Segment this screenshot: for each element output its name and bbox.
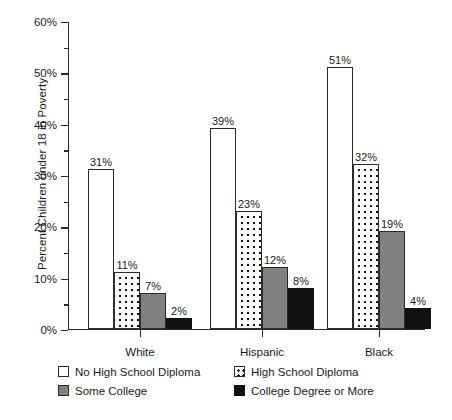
- legend-label: High School Diploma: [251, 366, 358, 378]
- y-tick-minor: [64, 150, 68, 151]
- legend-entry: College Degree or More: [234, 385, 448, 397]
- x-axis-line: [68, 329, 425, 330]
- legend-swatch-black: [234, 385, 245, 396]
- legend-label: College Degree or More: [251, 385, 374, 397]
- bar-value-label: 7%: [145, 280, 161, 292]
- bar: 51%: [327, 67, 353, 329]
- chart-legend: No High School DiplomaHigh School Diplom…: [58, 362, 448, 400]
- y-tick-major: [61, 125, 68, 126]
- legend-label: Some College: [75, 385, 147, 397]
- y-tick-major: [61, 73, 68, 74]
- bar-value-label: 11%: [116, 259, 137, 271]
- y-tick-minor: [64, 304, 68, 305]
- bar: 19%: [379, 231, 405, 329]
- y-tick-minor: [64, 99, 68, 100]
- y-tick-major: [61, 176, 68, 177]
- y-tick-label: 0%: [40, 324, 57, 336]
- x-axis-category-label: White: [125, 346, 154, 358]
- legend-entry: Some College: [58, 385, 234, 397]
- legend-entry: No High School Diploma: [58, 366, 234, 378]
- x-axis-category-label: Black: [365, 346, 393, 358]
- y-tick-minor: [64, 253, 68, 254]
- legend-label: No High School Diploma: [75, 366, 200, 378]
- y-tick-label: 40%: [34, 119, 57, 131]
- legend-swatch-dotted: [234, 366, 245, 377]
- bar-value-label: 51%: [329, 54, 351, 66]
- y-tick-label: 20%: [34, 221, 57, 233]
- bar: 32%: [353, 164, 379, 328]
- y-tick-minor: [64, 202, 68, 203]
- bar: 12%: [262, 267, 288, 329]
- bar: 39%: [210, 128, 236, 328]
- x-tick: [262, 330, 263, 337]
- x-tick: [379, 330, 380, 337]
- bar: 31%: [88, 169, 114, 328]
- y-tick-label: 30%: [34, 170, 57, 182]
- bar: 4%: [405, 308, 431, 329]
- plot-area: 0%10%20%30%40%50%60% WhiteHispanicBlack …: [68, 22, 425, 330]
- bar: 7%: [140, 293, 166, 329]
- y-tick-major: [61, 227, 68, 228]
- y-tick-label: 10%: [34, 273, 57, 285]
- y-tick-major: [61, 279, 68, 280]
- bar: 23%: [236, 211, 262, 329]
- bar-value-label: 23%: [238, 198, 260, 210]
- poverty-by-education-bar-chart: Percent Children under 18 in Poverty 0%1…: [0, 0, 452, 420]
- x-axis-category-label: Hispanic: [240, 346, 284, 358]
- bar-value-label: 39%: [212, 115, 234, 127]
- bar-value-label: 12%: [264, 254, 286, 266]
- y-tick-major: [61, 22, 68, 23]
- legend-swatch-open: [58, 366, 69, 377]
- bar: 8%: [288, 288, 314, 329]
- y-tick-major: [61, 330, 68, 331]
- bar-value-label: 31%: [90, 156, 112, 168]
- y-axis-line: [68, 22, 69, 330]
- bar-value-label: 32%: [355, 151, 377, 163]
- bar-value-label: 19%: [381, 218, 403, 230]
- y-tick-label: 60%: [34, 16, 57, 28]
- y-tick-label: 50%: [34, 67, 57, 79]
- legend-swatch-gray: [58, 385, 69, 396]
- bar-value-label: 4%: [410, 295, 426, 307]
- legend-entry: High School Diploma: [234, 366, 448, 378]
- bar-value-label: 8%: [293, 275, 309, 287]
- x-tick: [140, 330, 141, 337]
- bar: 2%: [166, 318, 192, 328]
- bar-value-label: 2%: [171, 305, 187, 317]
- y-tick-minor: [64, 48, 68, 49]
- bar: 11%: [114, 272, 140, 328]
